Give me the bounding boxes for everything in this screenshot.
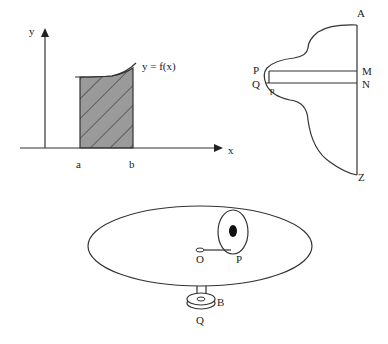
label-p: p	[270, 85, 275, 95]
label-A: A	[357, 7, 365, 19]
center-O	[196, 248, 204, 252]
label-P: P	[253, 64, 259, 76]
bound-b-label: b	[129, 158, 135, 170]
revolution-profile-figure: A P Q p M N Z	[252, 7, 372, 183]
y-axis-label: y	[29, 25, 35, 37]
x-axis-label: x	[228, 144, 234, 156]
label-P: P	[236, 253, 242, 265]
label-B: B	[217, 296, 224, 308]
disc-wheel-figure: O P B Q	[88, 206, 312, 326]
label-M: M	[362, 65, 372, 77]
turntable-disc	[88, 206, 312, 286]
label-O: O	[196, 253, 204, 265]
label-Q: Q	[252, 78, 260, 90]
pulley-hole	[197, 297, 205, 301]
shaded-area	[80, 68, 133, 148]
bound-a-label: a	[76, 158, 81, 170]
label-Z: Z	[358, 171, 365, 183]
curve-label: y = f(x)	[142, 60, 176, 73]
area-under-curve-figure: y x y = f(x) a b	[20, 25, 234, 170]
label-Q: Q	[196, 314, 204, 326]
wheel-hub-icon	[229, 225, 237, 237]
label-N: N	[362, 78, 370, 90]
x-axis-arrow-icon	[214, 144, 223, 152]
y-axis-arrow-icon	[41, 28, 49, 37]
profile-curve	[264, 25, 357, 175]
